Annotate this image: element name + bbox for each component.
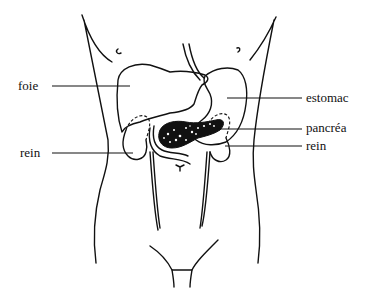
groin-curve (150, 240, 218, 270)
kidney-left (123, 130, 147, 159)
ureter-left (150, 152, 160, 230)
label-rein-right: rein (306, 139, 326, 152)
ureter-right (200, 152, 210, 228)
nipple-left (117, 49, 121, 54)
label-estomac: estomac (306, 91, 349, 104)
torso-outline-left (82, 15, 112, 263)
label-pancreas: pancréa (306, 121, 346, 134)
torso-outline-right (250, 17, 276, 263)
label-rein-left: rein (20, 146, 40, 159)
anatomy-diagram: foie rein estomac pancréa rein (0, 0, 367, 300)
nipple-right (237, 48, 240, 52)
esophagus (183, 44, 204, 80)
label-foie: foie (18, 79, 38, 92)
navel (176, 165, 184, 171)
liver (117, 64, 208, 132)
groin-legs (172, 270, 192, 287)
